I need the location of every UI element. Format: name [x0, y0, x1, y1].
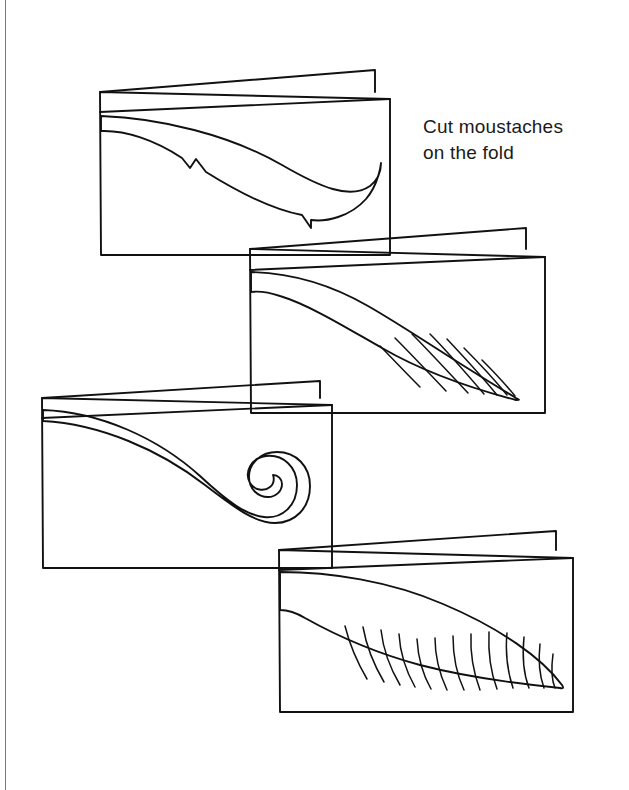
instruction-text: Cut moustaches on the fold [423, 114, 623, 166]
card-1 [100, 70, 390, 255]
card-4-back-panel [279, 531, 556, 550]
card-1-fold-line [100, 99, 390, 112]
card-3-moustache-outline [43, 410, 310, 523]
card-2-hatching [380, 334, 515, 396]
card-2-back-panel [250, 228, 526, 249]
card-3-back-panel [42, 381, 320, 398]
worksheet-page: Cut moustaches on the fold [0, 0, 629, 790]
card-2-fold-line [250, 257, 545, 270]
card-1-front-panel [100, 92, 390, 255]
card-4 [279, 531, 573, 712]
card-1-back-panel [100, 70, 375, 92]
card-2-moustache-outline [251, 272, 519, 400]
card-1-moustache-outline [101, 116, 381, 228]
card-3 [42, 381, 332, 568]
card-3-front-panel [42, 398, 332, 568]
card-4-hatching [345, 626, 555, 690]
card-4-moustache-outline [280, 572, 563, 688]
card-4-fold-line [279, 558, 573, 570]
